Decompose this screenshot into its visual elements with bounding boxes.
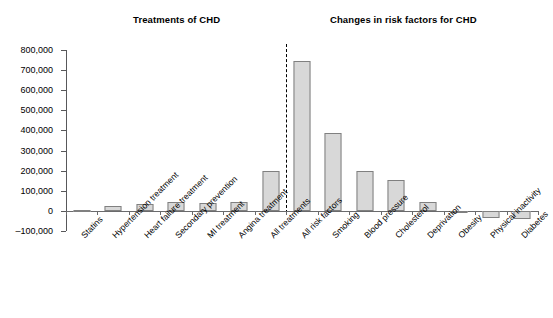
y-tick: –100,000 bbox=[61, 231, 66, 232]
y-tick-label: 100,000 bbox=[20, 186, 53, 196]
bar-slot bbox=[475, 50, 506, 231]
y-tick-label: 300,000 bbox=[20, 146, 53, 156]
x-tick bbox=[66, 211, 67, 215]
panel-divider bbox=[286, 44, 287, 213]
bar bbox=[293, 61, 310, 211]
y-tick-label: 600,000 bbox=[20, 85, 53, 95]
bar bbox=[356, 171, 373, 210]
bar-slot bbox=[349, 50, 380, 231]
y-tick-label: 0 bbox=[48, 206, 53, 216]
bar bbox=[73, 210, 90, 212]
bar-slot bbox=[444, 50, 475, 231]
plot-area: 800,000700,000600,000500,000400,000300,0… bbox=[66, 50, 538, 231]
y-tick-label: 400,000 bbox=[20, 125, 53, 135]
y-tick-label: 700,000 bbox=[20, 65, 53, 75]
panel-title-treatments: Treatments of CHD bbox=[133, 14, 220, 25]
y-tick-label: 200,000 bbox=[20, 166, 53, 176]
bar bbox=[105, 206, 122, 210]
chd-deaths-bar-chart: Treatments of CHD Changes in risk factor… bbox=[0, 0, 553, 318]
bar bbox=[482, 211, 499, 218]
bar-slot bbox=[412, 50, 443, 231]
bar-slot bbox=[66, 50, 97, 231]
y-tick-label: –100,000 bbox=[15, 226, 53, 236]
bar-slot bbox=[97, 50, 128, 231]
y-tick-label: 500,000 bbox=[20, 105, 53, 115]
y-tick-label: 800,000 bbox=[20, 45, 53, 55]
panel-title-risk-factors: Changes in risk factors for CHD bbox=[330, 14, 477, 25]
